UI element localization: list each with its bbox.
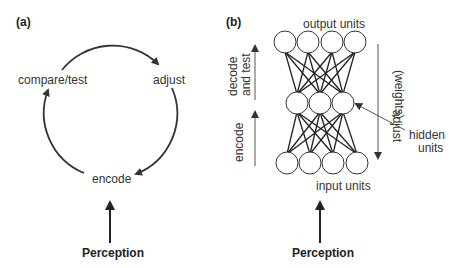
output-node <box>297 31 319 53</box>
panel-a: (a) compare/test adjust encode Perceptio… <box>16 15 186 260</box>
input-node <box>346 152 368 174</box>
weights-hidden-input <box>287 112 357 154</box>
hidden-units-label-line2: units <box>418 141 443 155</box>
decode-label-line1: decode <box>226 56 240 96</box>
hidden-units-label-line1: hidden <box>409 128 445 142</box>
input-node <box>299 152 321 174</box>
hidden-node <box>286 92 308 114</box>
input-units-label: input units <box>316 179 371 193</box>
panel-a-label: (a) <box>16 15 31 29</box>
input-node <box>276 152 298 174</box>
figure-canvas: (a) compare/test adjust encode Perceptio… <box>0 0 459 268</box>
perception-label-a: Perception <box>82 246 144 260</box>
hidden-node <box>309 92 331 114</box>
output-node <box>321 31 343 53</box>
panel-b-label: (b) <box>226 15 241 29</box>
arrow-encode-to-compare <box>44 90 84 173</box>
weights-output-hidden <box>285 52 355 94</box>
input-node <box>322 152 344 174</box>
perception-label-b: Perception <box>292 246 354 260</box>
hidden-layer <box>286 92 354 114</box>
arrow-adjust-to-encode <box>136 88 177 174</box>
panel-b: (b) output units <box>226 15 445 260</box>
hidden-node <box>332 92 354 114</box>
cycle-encode: encode <box>92 172 132 186</box>
output-node <box>274 31 296 53</box>
arrow-compare-to-adjust <box>62 46 158 70</box>
cycle-compare-test: compare/test <box>18 73 88 87</box>
input-layer <box>276 152 368 174</box>
encode-label-b: encode <box>232 122 246 162</box>
decode-label-line2: and test <box>239 53 253 96</box>
output-node <box>344 31 366 53</box>
cycle-adjust: adjust <box>153 73 186 87</box>
adjust-label-line2: (weights) <box>392 70 406 119</box>
output-layer <box>274 31 366 53</box>
output-units-label: output units <box>303 17 365 31</box>
